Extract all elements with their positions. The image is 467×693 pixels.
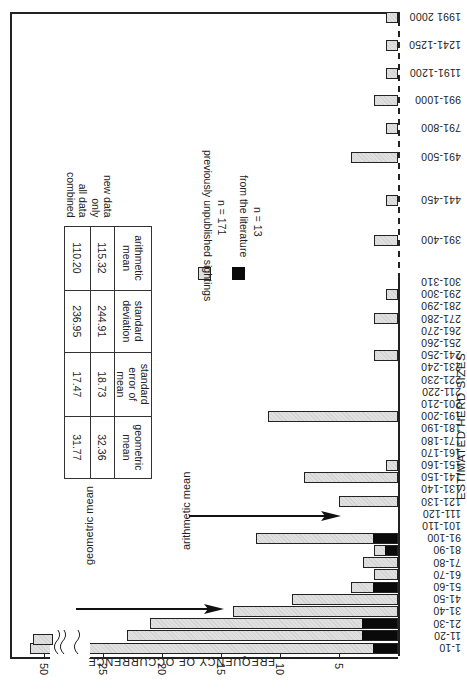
category-label: 151-160	[401, 459, 461, 471]
bar-literature-segment	[373, 583, 397, 592]
row-label: all data combined	[65, 168, 91, 226]
header-se-1: standard	[139, 357, 151, 412]
category-label: 31-40	[401, 605, 461, 617]
bar-141-150	[304, 472, 398, 483]
category-label: 71-80	[401, 557, 461, 569]
bar-literature-segment	[373, 644, 397, 653]
category-label: 191-200	[401, 410, 461, 422]
bar-61-70	[374, 569, 398, 580]
bar-literature-segment	[373, 534, 397, 543]
header-arith-1: arithmetic	[133, 231, 145, 286]
bar-1191-1200	[386, 68, 398, 79]
frame-left	[10, 12, 12, 658]
bar-literature-segment	[385, 546, 397, 555]
bar-791-800	[386, 123, 398, 134]
bar-391-400	[374, 235, 398, 246]
cell: 18.73	[91, 352, 115, 416]
frame-top	[10, 12, 398, 14]
legend-label-literature: from the literature	[238, 175, 250, 257]
cell: 110.20	[65, 226, 91, 290]
category-label: 251-260	[401, 337, 461, 349]
category-label: 1991 2000	[401, 11, 461, 23]
category-label: 161-170	[401, 447, 461, 459]
cell: 115.32	[91, 226, 115, 290]
axis-break-marks	[50, 628, 90, 660]
bar-1991-2000	[386, 12, 398, 23]
header-se-2: error of mean	[115, 357, 139, 412]
category-label: 1191-1200	[401, 67, 461, 79]
bar-literature-segment	[362, 631, 397, 640]
bar-291-300	[386, 289, 398, 300]
category-label: 271-280	[401, 313, 461, 325]
cell: 244.91	[91, 290, 115, 352]
bar-271-280	[374, 313, 398, 324]
category-label: 181-190	[401, 422, 461, 434]
category-label: 201-210	[401, 398, 461, 410]
category-label: 301-310	[401, 276, 461, 288]
cell: 17.47	[65, 352, 91, 416]
header-geo-2: mean	[121, 421, 133, 474]
geometric-mean-arrow	[76, 600, 224, 610]
category-label: 291-300	[401, 288, 461, 300]
arithmetic-mean-arrow	[189, 507, 341, 517]
y-axis-title: FREQUENCY OF OCCURRENCE	[88, 656, 276, 668]
bar-491-500	[351, 152, 398, 163]
bar-1241-1250	[386, 40, 398, 51]
category-label: 211-220	[401, 386, 461, 398]
bar-191-200	[268, 411, 398, 422]
bar-241-250	[374, 350, 398, 361]
stats-table: arithmeticmean standarddeviation standar…	[64, 168, 152, 479]
annotation-geometric-mean: geometric mean	[83, 486, 95, 565]
category-label: 231-240	[401, 361, 461, 373]
legend-label-unpublished: previously unpublished sightings	[202, 150, 214, 301]
header-arith-2: mean	[121, 231, 133, 286]
category-label: 261-270	[401, 325, 461, 337]
category-label: 791-800	[401, 122, 461, 134]
category-label: 41-50	[401, 593, 461, 605]
category-label: 131-140	[401, 483, 461, 495]
bar-11-20	[127, 630, 398, 641]
y-tick-label: 50	[38, 663, 50, 675]
cell: 236.95	[65, 290, 91, 352]
category-label: 111-120	[401, 508, 461, 520]
cell: 32.36	[91, 416, 115, 478]
bar-81-90	[374, 545, 398, 556]
category-label: 21-30	[401, 618, 461, 630]
category-label: 241-250	[401, 349, 461, 361]
bar-991-1000	[374, 95, 398, 106]
header-sd-2: deviation	[121, 295, 133, 348]
category-label: 171-180	[401, 435, 461, 447]
bar-41-50	[292, 594, 398, 605]
legend-swatch-literature	[232, 267, 245, 280]
bar-91-100	[256, 533, 398, 544]
category-label: 281-290	[401, 300, 461, 312]
category-label: 11-20	[401, 630, 461, 642]
category-label: 491-500	[401, 151, 461, 163]
bar-71-80	[363, 557, 398, 568]
category-label: 991-1000	[401, 94, 461, 106]
category-label: 61-70	[401, 569, 461, 581]
cell: 31.77	[65, 416, 91, 478]
category-label: 81-90	[401, 544, 461, 556]
category-label: 51-60	[401, 581, 461, 593]
category-label: 1241-1250	[401, 39, 461, 51]
bar-21-30	[150, 618, 398, 629]
legend-n-literature: n = 13	[252, 207, 264, 237]
category-label: 1-10	[401, 642, 461, 654]
category-label: 101-110	[401, 520, 461, 532]
bar-121-130	[339, 496, 398, 507]
y-tick-label: 10	[274, 663, 286, 675]
category-label: 121-130	[401, 496, 461, 508]
x-axis-title: ESTIMATED HERD SIZES	[455, 353, 467, 500]
category-label: 91-100	[401, 532, 461, 544]
table-row: all data combined 110.20 236.95 17.47 31…	[65, 168, 91, 479]
category-label: 221-230	[401, 374, 461, 386]
category-label: 441-450	[401, 194, 461, 206]
table-row: new data only 115.32 244.91 18.73 32.36	[91, 168, 115, 479]
bar-441-450	[386, 195, 398, 206]
legend-n-unpublished: n = 171	[216, 200, 228, 235]
y-tick-label: 5	[333, 663, 345, 669]
category-label: 391-400	[401, 234, 461, 246]
row-label: new data only	[91, 168, 115, 226]
bar-51-60	[351, 582, 398, 593]
